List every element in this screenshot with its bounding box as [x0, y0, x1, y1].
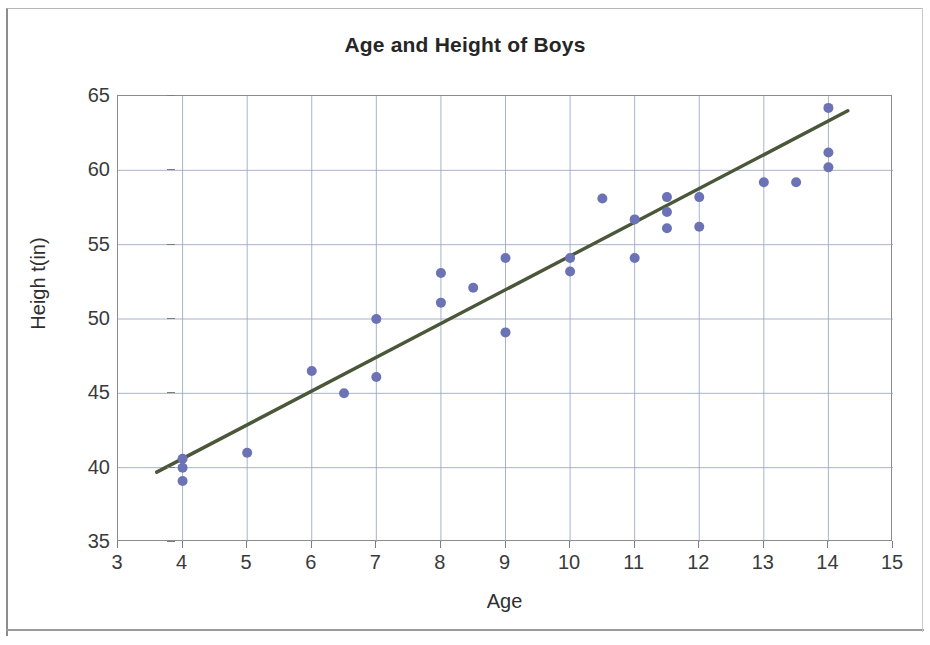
trendline: [157, 111, 848, 472]
x-axis-tick-label: 3: [97, 551, 137, 574]
y-axis-tick-label: 35: [66, 530, 110, 553]
x-axis-tick-mark: [763, 541, 764, 548]
y-axis-tick-label: 40: [66, 455, 110, 478]
x-axis-tick-mark: [827, 541, 828, 548]
x-axis-tick-label: 8: [420, 551, 460, 574]
x-axis-tick-label: 15: [872, 551, 912, 574]
x-axis-tick-label: 10: [549, 551, 589, 574]
x-axis-tick-mark: [634, 541, 635, 548]
x-axis-tick-label: 9: [485, 551, 525, 574]
x-axis-tick-mark: [311, 541, 312, 548]
x-axis-tick-mark: [117, 541, 118, 548]
x-axis-ticks: 3456789101112131415: [117, 541, 892, 587]
x-axis-tick-mark: [375, 541, 376, 548]
x-axis-tick-label: 11: [614, 551, 654, 574]
x-axis-tick-mark: [698, 541, 699, 548]
y-axis-tick-mark: [167, 95, 175, 96]
x-axis-tick-label: 4: [162, 551, 202, 574]
y-axis-tick-label: 50: [66, 307, 110, 330]
y-axis-ticks: 35404550556065: [58, 95, 110, 541]
x-axis-tick-mark: [246, 541, 247, 548]
y-axis-tick-mark: [167, 392, 175, 393]
x-axis-tick-mark: [182, 541, 183, 548]
y-axis-tick-label: 55: [66, 232, 110, 255]
x-axis-tick-label: 6: [291, 551, 331, 574]
y-axis-tick-label: 65: [66, 84, 110, 107]
x-axis-tick-mark: [440, 541, 441, 548]
x-axis-tick-label: 7: [355, 551, 395, 574]
x-axis-tick-mark: [892, 541, 893, 548]
x-axis-tick-mark: [505, 541, 506, 548]
y-axis-tick-label: 60: [66, 158, 110, 181]
plot-area: [117, 95, 892, 541]
scatter-chart: Age and Height of Boys 35404550556065 34…: [0, 0, 930, 645]
x-axis-tick-mark: [569, 541, 570, 548]
x-axis-tick-label: 12: [678, 551, 718, 574]
x-axis-tick-label: 5: [226, 551, 266, 574]
gridlines: [118, 96, 893, 542]
y-axis-tick-label: 45: [66, 381, 110, 404]
y-axis-tick-mark: [167, 244, 175, 245]
x-axis-tick-label: 14: [807, 551, 847, 574]
x-axis-tick-label: 13: [743, 551, 783, 574]
y-axis-tick-mark: [167, 467, 175, 468]
y-axis-tick-mark: [167, 318, 175, 319]
x-axis-title: Age: [117, 590, 892, 613]
y-axis-tick-mark: [167, 169, 175, 170]
plot-canvas: [118, 96, 893, 542]
chart-title: Age and Height of Boys: [0, 33, 930, 57]
y-axis-title: Heigh t(in): [27, 184, 50, 384]
